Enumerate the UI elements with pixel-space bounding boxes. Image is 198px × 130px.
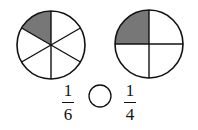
shaded-sector [22,11,51,45]
fraction-bar [62,102,74,103]
left-denominator: 6 [64,106,73,124]
comparison-blank-circle[interactable] [89,85,111,107]
right-numerator: 1 [126,82,135,100]
fraction-circles-diagram [0,0,198,130]
right-fraction-circle [115,10,183,78]
left-numerator: 1 [64,82,73,100]
right-denominator: 4 [126,106,135,124]
fraction-bar [124,102,136,103]
left-fraction: 1 6 [60,82,76,124]
left-fraction-circle [17,11,85,79]
right-fraction: 1 4 [122,82,138,124]
